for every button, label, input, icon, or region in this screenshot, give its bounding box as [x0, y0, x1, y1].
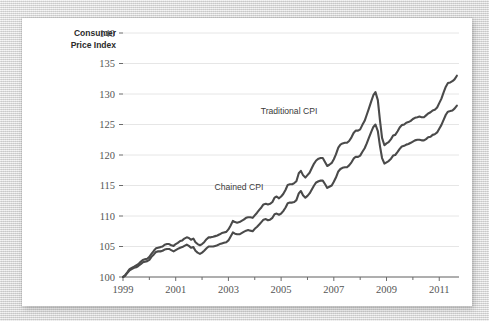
- x-tick-label: 2001: [165, 284, 186, 295]
- series-line-chained-cpi: [123, 106, 457, 277]
- gridline-group: [123, 33, 459, 277]
- y-tick-label-group: 100105110115120125130135140: [99, 28, 115, 283]
- y-tick-label: 115: [100, 180, 115, 191]
- series-annotation: Traditional CPI: [261, 106, 318, 116]
- x-tick-label: 2003: [218, 284, 239, 295]
- series-annotation: Chained CPI: [215, 182, 264, 192]
- x-tick-label: 2011: [429, 284, 450, 295]
- x-tick-label: 1999: [113, 284, 134, 295]
- x-tick-label: 2009: [376, 284, 397, 295]
- series-annotation-group: Traditional CPIChained CPI: [215, 106, 318, 193]
- chart-plot-area: 100105110115120125130135140 199920012003…: [22, 18, 472, 306]
- y-tick-label: 110: [100, 211, 115, 222]
- y-tick-label: 135: [99, 58, 115, 69]
- y-tick-label: 100: [99, 272, 115, 283]
- cpi-line-chart: 100105110115120125130135140 199920012003…: [22, 18, 472, 306]
- y-tick-label: 120: [99, 150, 115, 161]
- y-tick-label: 130: [99, 89, 115, 100]
- y-tick-label: 125: [99, 119, 115, 130]
- x-tick-label: 2007: [323, 284, 344, 295]
- chart-card: 100105110115120125130135140 199920012003…: [22, 18, 472, 306]
- x-tick-label: 2005: [271, 284, 292, 295]
- y-axis-label-line1: Consumer: [74, 28, 117, 38]
- y-tick-label: 105: [99, 241, 115, 252]
- y-axis-label-line2: Price Index: [71, 40, 117, 50]
- x-tick-label-group: 1999200120032005200720092011: [113, 284, 450, 295]
